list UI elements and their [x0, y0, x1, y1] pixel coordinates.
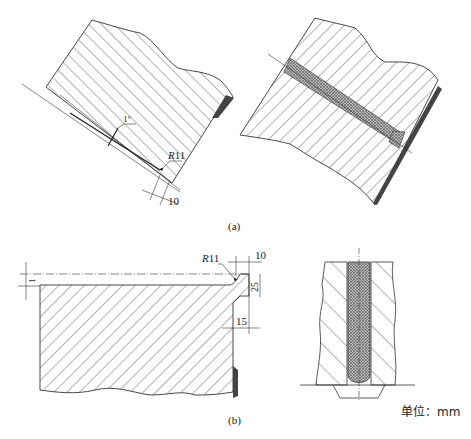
offset-label: 1: [27, 279, 37, 284]
workpiece-right: [371, 262, 396, 385]
weld-bead: [233, 366, 238, 398]
panel-b-right-view: [300, 248, 415, 402]
caption-b: (b): [228, 414, 241, 427]
unit-label: 单位：mm: [401, 402, 460, 419]
panel-b-left-view: 1 R11 10 25 15: [18, 249, 267, 398]
top-width-label: 10: [255, 249, 267, 261]
width-label: 10: [168, 195, 180, 207]
workpiece-left: [316, 262, 347, 385]
angle-label: 1°: [123, 114, 132, 124]
panel-a-left-view: 1° R11 10: [22, 20, 234, 207]
caption-a: (a): [228, 220, 241, 233]
height-label: 25: [249, 282, 260, 292]
workpiece-section: [40, 274, 249, 395]
radius-leader: [218, 264, 234, 278]
radius-label: R11: [201, 252, 219, 264]
bottom-width-label: 15: [236, 315, 248, 327]
radius-label: R11: [167, 149, 185, 161]
workpiece-section: [240, 18, 438, 205]
panel-a-right-view: [240, 18, 442, 205]
workpiece-section: [46, 20, 233, 183]
technical-drawing: 1° R11 10 (a) 1 R11 10 25 15: [0, 0, 471, 439]
